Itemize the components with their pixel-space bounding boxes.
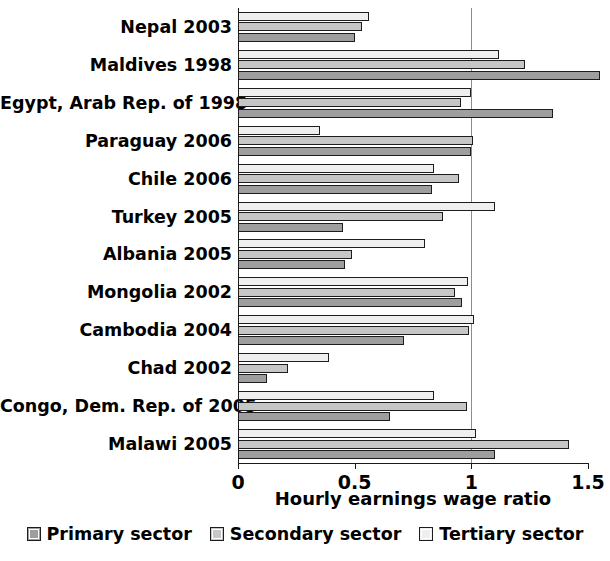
plot-area: 00.511.5 — [238, 8, 588, 463]
bar — [238, 374, 267, 383]
bar — [238, 50, 499, 59]
bar-group — [238, 311, 588, 349]
x-axis-line — [238, 463, 588, 464]
bar-group — [238, 198, 588, 236]
category-label: Egypt, Arab Rep. of 1998 — [0, 93, 232, 113]
x-tick-mark — [355, 463, 356, 469]
legend-label: Primary sector — [47, 524, 192, 544]
category-label: Albania 2005 — [0, 244, 232, 264]
category-label: Chad 2002 — [0, 358, 232, 378]
legend-label: Tertiary sector — [439, 524, 583, 544]
bar — [238, 22, 362, 31]
legend-swatch-icon — [419, 527, 433, 541]
bar — [238, 185, 432, 194]
bar-group — [238, 387, 588, 425]
category-label: Paraguay 2006 — [0, 131, 232, 151]
bar — [238, 136, 473, 145]
bar-group — [238, 84, 588, 122]
category-label: Chile 2006 — [0, 169, 232, 189]
bar-group — [238, 349, 588, 387]
bar — [238, 212, 443, 221]
legend-item[interactable]: Tertiary sector — [419, 524, 583, 544]
bar — [238, 250, 352, 259]
bar — [238, 239, 425, 248]
x-tick-mark — [238, 463, 239, 469]
bar-chart: Nepal 2003Maldives 1998Egypt, Arab Rep. … — [0, 0, 610, 561]
bar — [238, 223, 343, 232]
bar — [238, 364, 288, 373]
bar — [238, 98, 461, 107]
bar — [238, 260, 345, 269]
legend-label: Secondary sector — [230, 524, 401, 544]
bar — [238, 164, 434, 173]
bar — [238, 412, 390, 421]
category-label: Cambodia 2004 — [0, 320, 232, 340]
bar — [238, 71, 600, 80]
bar — [238, 12, 369, 21]
bar — [238, 429, 476, 438]
bar — [238, 88, 471, 97]
bar-group — [238, 46, 588, 84]
bar — [238, 353, 329, 362]
x-tick-mark — [471, 463, 472, 469]
category-label: Congo, Dem. Rep. of 2005 — [0, 396, 232, 416]
category-label: Malawi 2005 — [0, 434, 232, 454]
bar — [238, 277, 468, 286]
legend: Primary sectorSecondary sectorTertiary s… — [0, 524, 610, 544]
bar — [238, 336, 404, 345]
bar — [238, 440, 569, 449]
legend-item[interactable]: Primary sector — [27, 524, 192, 544]
bar — [238, 174, 459, 183]
category-label: Turkey 2005 — [0, 207, 232, 227]
bar — [238, 33, 355, 42]
bar — [238, 202, 495, 211]
x-tick-mark — [588, 463, 589, 469]
legend-item[interactable]: Secondary sector — [210, 524, 401, 544]
bar — [238, 391, 434, 400]
bar — [238, 126, 320, 135]
bar — [238, 109, 553, 118]
category-label: Maldives 1998 — [0, 55, 232, 75]
bar-group — [238, 273, 588, 311]
bar — [238, 326, 469, 335]
category-label: Nepal 2003 — [0, 17, 232, 37]
legend-swatch-icon — [210, 527, 224, 541]
bar — [238, 315, 474, 324]
bar — [238, 288, 455, 297]
x-axis-title: Hourly earnings wage ratio — [238, 488, 588, 509]
bar — [238, 60, 525, 69]
legend-swatch-icon — [27, 527, 41, 541]
bar — [238, 450, 495, 459]
bar-group — [238, 236, 588, 274]
bar-group — [238, 122, 588, 160]
bar-group — [238, 8, 588, 46]
bar — [238, 298, 462, 307]
bar-group — [238, 425, 588, 463]
bar — [238, 402, 467, 411]
bar-group — [238, 160, 588, 198]
category-label: Mongolia 2002 — [0, 282, 232, 302]
bar — [238, 147, 471, 156]
